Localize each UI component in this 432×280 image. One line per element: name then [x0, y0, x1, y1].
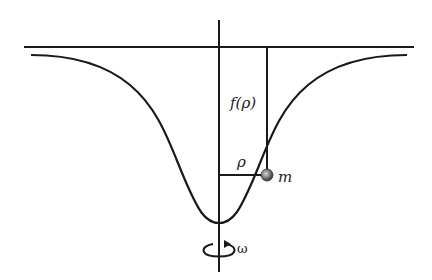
rotating-surface-diagram: f(ρ) ρ m ω	[0, 0, 432, 280]
mass-label: m	[278, 168, 292, 186]
mass-ball	[261, 169, 273, 181]
angular-velocity-label: ω	[237, 241, 248, 256]
radius-label: ρ	[236, 153, 246, 171]
height-label: f(ρ)	[229, 94, 256, 112]
